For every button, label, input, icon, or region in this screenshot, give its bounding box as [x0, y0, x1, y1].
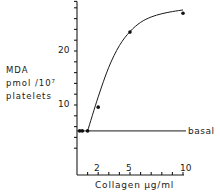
x-tick-label-5: 5 [126, 163, 132, 173]
y-axis-label-line-1: MDA [6, 64, 56, 77]
y-tick-label-10: 10 [58, 99, 69, 109]
y-axis-label-line-2: pmol /10⁷ [6, 77, 56, 90]
y-axis-label-line-3: platelets [6, 90, 56, 103]
x-tick-label-10: 10 [180, 163, 191, 173]
y-axis-label: MDA pmol /10⁷ platelets [6, 64, 56, 103]
data-point [181, 11, 185, 15]
basal-annotation: basal [188, 126, 214, 136]
axes [74, 1, 184, 175]
x-tick-label-2: 2 [94, 163, 100, 173]
x-axis-label: Collagen µg/ml [95, 180, 174, 190]
fitted-curve [88, 10, 183, 131]
data-point [81, 129, 85, 133]
data-point [96, 105, 100, 109]
data-point [86, 129, 90, 133]
data-point [128, 30, 132, 34]
y-tick-label-20: 20 [58, 45, 69, 55]
